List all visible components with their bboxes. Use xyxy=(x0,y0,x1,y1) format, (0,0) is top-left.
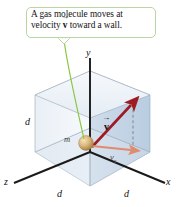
velocity-x-component-label: vx xyxy=(110,152,116,164)
callout-line-1: A gas molecule moves at xyxy=(31,9,123,19)
dimension-label-left: d xyxy=(25,116,30,127)
velocity-symbol: v xyxy=(104,121,109,132)
axis-label-y: y xyxy=(86,47,90,58)
callout-line-2-prefix: velocity xyxy=(31,20,63,30)
gas-molecule-sphere xyxy=(79,136,94,151)
axis-label-x: x xyxy=(166,176,170,187)
callout-tail xyxy=(58,38,70,44)
mass-label: m xyxy=(64,134,70,144)
axis-label-z: z xyxy=(4,176,8,187)
callout-line-2-suffix: toward a wall. xyxy=(67,20,122,30)
dimension-label-front-right: d xyxy=(124,188,129,199)
callout-velocity-vector-symbol: v xyxy=(63,20,68,31)
velocity-vector-label: v xyxy=(104,121,109,132)
gas-molecule-in-cube-figure: A gas molecule moves at velocity v towar… xyxy=(0,0,179,207)
velocity-component-subscript: x xyxy=(114,158,117,164)
callout-text: A gas molecule moves at velocity v towar… xyxy=(31,9,153,32)
dimension-label-front-left: d xyxy=(57,188,62,199)
